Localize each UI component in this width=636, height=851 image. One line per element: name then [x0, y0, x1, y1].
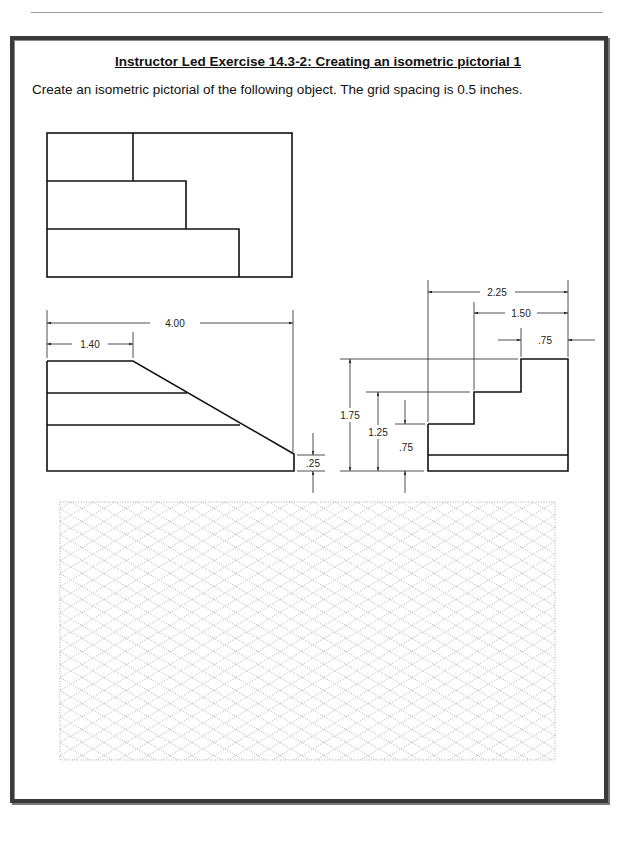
dim-height-low: .75 [399, 442, 413, 453]
dim-end-height: .25 [306, 458, 320, 469]
dim-overall-width: 4.00 [165, 318, 185, 329]
dim-width-mid: 1.50 [511, 308, 531, 319]
dim-top-length: 1.40 [80, 339, 100, 350]
dim-height-total: 1.75 [340, 410, 360, 421]
drawings: 4.00 1.40 .25 [0, 0, 636, 851]
dim-width-top: .75 [538, 335, 552, 346]
side-view: 1.75 1.25 .75 2.25 1.50 .75 [340, 280, 595, 493]
dim-width-total: 2.25 [487, 287, 507, 298]
front-view: 4.00 1.40 .25 [47, 310, 325, 493]
dim-height-mid: 1.25 [368, 427, 388, 438]
top-view [47, 133, 292, 277]
isometric-grid[interactable] [60, 502, 555, 760]
